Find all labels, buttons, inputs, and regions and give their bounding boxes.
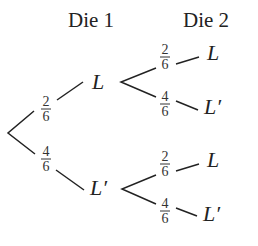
svg-text:4: 4 (43, 144, 50, 159)
prob-level2-lower-lower: 4 6 (160, 196, 170, 226)
fork-from-Lprime (122, 175, 156, 204)
header-die-2: Die 2 (183, 8, 229, 32)
prob-level2-upper-lower: 4 6 (160, 89, 170, 119)
svg-text:6: 6 (162, 104, 169, 119)
svg-text:6: 6 (162, 164, 169, 179)
edge-root-to-Lprime (56, 170, 84, 190)
header-die-1: Die 1 (68, 8, 114, 32)
probability-tree-diagram: Die 1 Die 2 2 6 4 6 L L′ 2 6 4 6 L L′ 2 … (0, 0, 258, 246)
prob-level2-upper-upper: 2 6 (160, 42, 170, 72)
svg-text:6: 6 (43, 159, 50, 174)
svg-text:2: 2 (162, 149, 169, 164)
fork-from-L (121, 68, 156, 97)
edge-Lprime-to-L (176, 164, 199, 171)
svg-text:2: 2 (43, 94, 50, 109)
prob-level1-lower: 4 6 (41, 144, 51, 174)
svg-text:6: 6 (162, 211, 169, 226)
prob-level1-upper: 2 6 (41, 94, 51, 124)
edge-root-to-L (57, 82, 83, 100)
svg-text:6: 6 (162, 57, 169, 72)
svg-text:2: 2 (162, 42, 169, 57)
edge-L-to-Lprime (176, 101, 198, 110)
prob-level2-lower-upper: 2 6 (160, 149, 170, 179)
node-Lprime: L′ (89, 175, 108, 200)
node-Lprime-Lprime: L′ (202, 201, 221, 226)
edge-Lprime-to-Lprime (176, 208, 197, 216)
node-L-Lprime: L′ (203, 94, 222, 119)
node-Lprime-L: L (206, 147, 219, 172)
node-L: L (91, 69, 104, 94)
svg-text:4: 4 (162, 89, 169, 104)
root-fork (8, 111, 35, 154)
edge-L-to-L (176, 57, 199, 64)
svg-text:4: 4 (162, 196, 169, 211)
svg-text:6: 6 (43, 109, 50, 124)
node-L-L: L (206, 40, 219, 65)
